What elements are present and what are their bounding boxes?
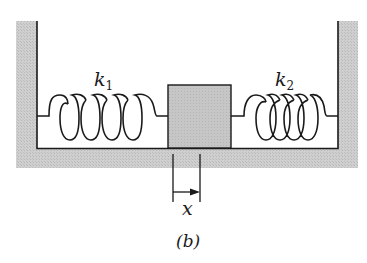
- label-k2: k2: [275, 68, 294, 93]
- label-k1-subscript: 1: [106, 79, 114, 93]
- spring-mass-diagram: k1 k2 x (b): [0, 0, 367, 263]
- mass-block: [168, 85, 231, 148]
- spring-k2: [231, 94, 338, 140]
- label-k1: k1: [94, 68, 113, 93]
- arrow-right-icon: [190, 189, 200, 196]
- figure-caption: (b): [176, 231, 200, 251]
- label-k2-subscript: 2: [287, 79, 295, 93]
- label-displacement-x: x: [182, 197, 193, 219]
- spring-k1: [37, 94, 168, 140]
